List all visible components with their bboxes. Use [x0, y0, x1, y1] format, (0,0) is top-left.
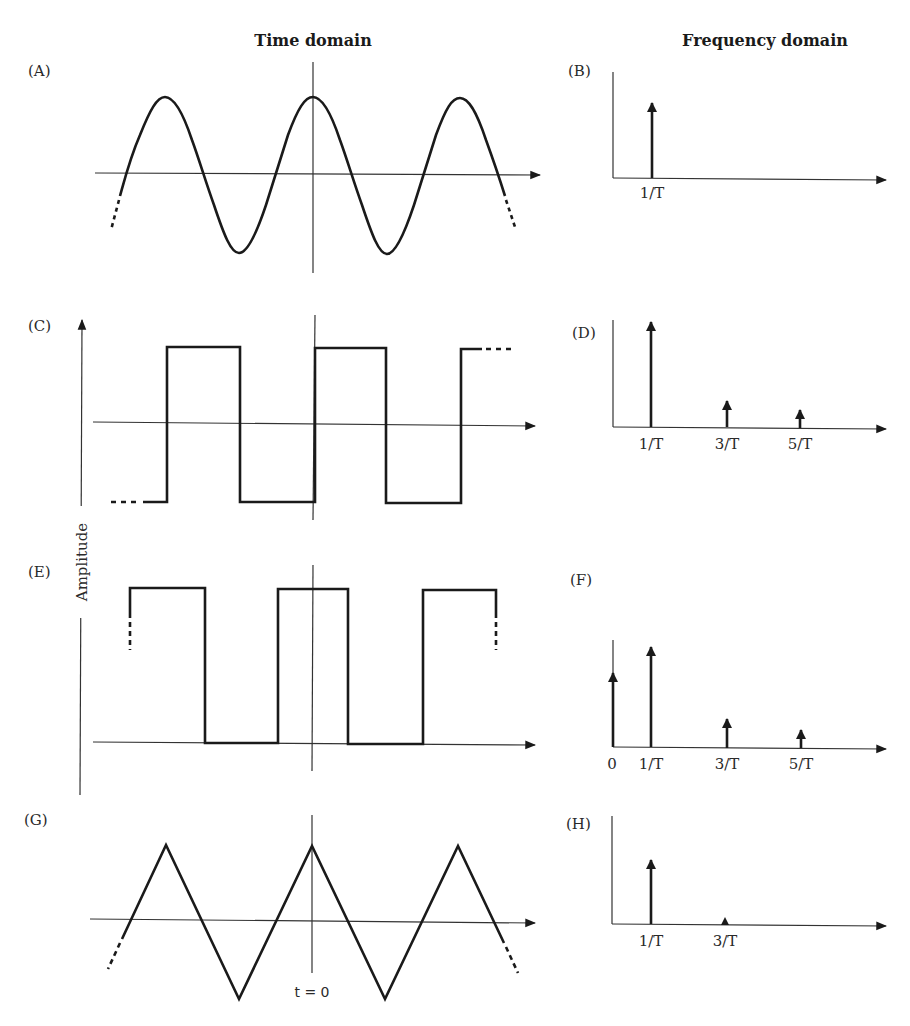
panel-f-spectrum: 0 1/T 3/T 5/T — [607, 640, 886, 773]
amplitude-axis: Amplitude — [70, 320, 92, 795]
panel-label-e: (E) — [28, 563, 51, 581]
tick-d-0: 1/T — [639, 435, 664, 453]
tick-d-2: 5/T — [788, 435, 813, 453]
tiny-spike-3T — [721, 917, 729, 925]
panel-d-spectrum: 1/T 3/T 5/T — [613, 320, 886, 453]
panel-label-h: (H) — [566, 815, 591, 833]
panel-label-g: (G) — [24, 811, 48, 829]
panel-e-offset-square — [93, 565, 535, 771]
panel-label-d: (D) — [572, 324, 596, 342]
tick-b-0: 1/T — [640, 184, 665, 202]
tick-f-2: 3/T — [715, 755, 740, 773]
panel-label-a: (A) — [28, 62, 51, 80]
tick-d-1: 3/T — [715, 435, 740, 453]
t-zero-label: t = 0 — [294, 984, 329, 1000]
panel-a-cosine — [95, 62, 540, 273]
panel-b-spectrum: 1/T — [613, 72, 886, 202]
panel-label-f: (F) — [570, 571, 592, 589]
tick-h-1: 3/T — [713, 932, 738, 950]
tick-f-0: 0 — [607, 755, 617, 773]
tick-f-1: 1/T — [639, 755, 664, 773]
panel-label-b: (B) — [568, 62, 591, 80]
frequency-domain-header: Frequency domain — [682, 31, 848, 50]
panel-h-spectrum: 1/T 3/T — [612, 816, 886, 950]
tick-h-0: 1/T — [639, 932, 664, 950]
fourier-figure: Time domain Frequency domain (A) (B) (C)… — [0, 0, 910, 1026]
time-domain-header: Time domain — [254, 31, 372, 50]
amplitude-label: Amplitude — [73, 523, 91, 603]
panel-c-square — [93, 315, 535, 520]
panel-g-triangle: t = 0 — [90, 815, 535, 1000]
tick-f-3: 5/T — [789, 755, 814, 773]
panel-label-c: (C) — [28, 317, 51, 335]
